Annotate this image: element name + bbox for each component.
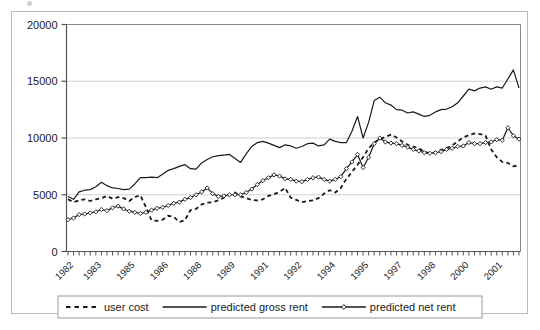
series-marker: [322, 177, 326, 181]
x-tick-label: 1994: [314, 259, 337, 282]
series-marker: [149, 208, 153, 212]
legend-label: predicted gross rent: [211, 301, 308, 313]
series-marker: [99, 207, 103, 211]
series-marker: [305, 177, 309, 181]
series-marker: [166, 203, 170, 207]
series-marker: [155, 206, 159, 210]
series-marker: [294, 179, 298, 183]
series-marker: [138, 211, 142, 215]
x-tick-label: 1985: [114, 259, 137, 282]
y-tick-label: 5000: [33, 189, 57, 201]
series-marker: [333, 177, 337, 181]
series-marker: [266, 176, 270, 180]
series-marker: [116, 204, 120, 208]
x-tick-label: 1991: [248, 259, 271, 282]
gridlines-group: [67, 25, 521, 195]
x-tick-label: 1989: [214, 259, 237, 282]
x-tick-label: 1986: [147, 259, 170, 282]
legend-label: user cost: [104, 301, 149, 313]
x-axis-ticks: [68, 252, 519, 256]
series-marker: [428, 151, 432, 155]
legend-label: predicted net rent: [370, 301, 456, 313]
series-marker: [328, 179, 332, 183]
series-line-predicted-net-rent: [68, 128, 519, 220]
series-marker: [172, 201, 176, 205]
y-tick-label: 10000: [27, 132, 58, 144]
series-marker: [277, 174, 281, 178]
y-axis-tick-labels: 05000100001500020000: [27, 19, 58, 258]
chart-legend: user costpredicted gross rentpredicted n…: [58, 296, 482, 318]
x-tick-label: 1992: [281, 259, 304, 282]
series-marker: [127, 209, 131, 213]
series-marker: [450, 146, 454, 150]
series-marker: [289, 177, 293, 181]
series-marker: [478, 142, 482, 146]
line-chart: 05000100001500020000 1982198319851986198…: [0, 0, 540, 330]
y-tick-label: 20000: [27, 19, 58, 31]
x-tick-label: 2001: [481, 259, 504, 282]
series-marker: [133, 210, 137, 214]
x-tick-label: 1982: [53, 259, 76, 282]
series-marker: [122, 207, 126, 211]
series-marker: [500, 138, 504, 142]
y-axis-ticks: [62, 25, 67, 252]
series-marker: [483, 140, 487, 144]
x-tick-label: 1988: [181, 259, 204, 282]
series-marker: [177, 200, 181, 204]
y-tick-label: 0: [51, 246, 57, 258]
series-marker: [316, 175, 320, 179]
x-tick-label: 1997: [381, 259, 404, 282]
series-marker: [389, 141, 393, 145]
series-marker: [283, 177, 287, 181]
series-marker: [94, 210, 98, 214]
series-marker: [394, 142, 398, 146]
series-marker: [194, 193, 198, 197]
series-marker: [110, 206, 114, 210]
x-tick-label: 1983: [81, 259, 104, 282]
x-axis-tick-labels: 1982198319851986198819891991199219941995…: [53, 259, 504, 282]
series-marker: [272, 173, 276, 177]
series-marker: [105, 209, 109, 213]
series-marker: [188, 195, 192, 199]
x-tick-label: 1998: [415, 259, 438, 282]
series-marker: [311, 176, 315, 180]
x-tick-label: 1995: [348, 259, 371, 282]
series-marker: [88, 211, 92, 215]
data-series-layer: [66, 70, 521, 222]
series-marker: [161, 205, 165, 209]
y-tick-label: 15000: [27, 75, 58, 87]
series-marker: [400, 143, 404, 147]
series-marker: [300, 180, 304, 184]
series-marker: [472, 142, 476, 146]
series-marker: [456, 144, 460, 148]
series-marker: [83, 212, 87, 216]
x-tick-label: 2000: [448, 259, 471, 282]
series-marker: [433, 151, 437, 155]
series-marker: [422, 151, 426, 155]
series-marker: [183, 197, 187, 201]
chart-screenshot: 05000100001500020000 1982198319851986198…: [0, 0, 540, 330]
